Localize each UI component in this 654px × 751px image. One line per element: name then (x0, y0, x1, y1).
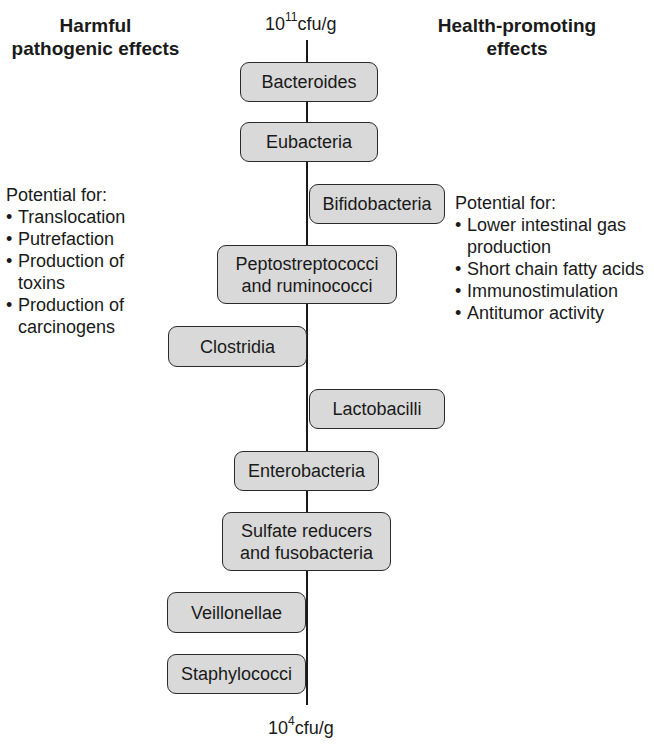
box-sulfate-reducers: Sulfate reducers and fusobacteria (222, 512, 391, 571)
beneficial-item-immunostimulation: Immunostimulation (455, 280, 654, 302)
harmful-item-translocation: Translocation (6, 206, 166, 228)
axis-bottom-unit: cfu/g (295, 718, 334, 738)
box-eubacteria: Eubacteria (240, 122, 378, 162)
beneficial-effects-title: Potential for: (455, 192, 654, 214)
box-veillonellae: Veillonellae (167, 592, 306, 633)
harmful-effects-title: Potential for: (6, 184, 166, 206)
harmful-item-toxins: Production of toxins (6, 250, 166, 294)
box-clostridia: Clostridia (168, 326, 307, 367)
axis-bottom-exponent: 4 (288, 714, 295, 728)
axis-bottom-label: 104cfu/g (268, 718, 334, 738)
box-staphylococci: Staphylococci (167, 654, 306, 694)
axis-top-unit: cfu/g (298, 14, 337, 34)
box-peptostreptococci: Peptostreptococci and ruminococci (217, 245, 397, 304)
harmful-item-carcinogens: Production of carcinogens (6, 294, 166, 338)
axis-top-label: 1011cfu/g (265, 14, 337, 34)
beneficial-effects-list: Potential for: Lower intestinal gas prod… (455, 192, 654, 324)
box-bacteroides: Bacteroides (240, 62, 378, 102)
axis-bottom-base: 10 (268, 718, 288, 738)
heading-harmful: Harmful pathogenic effects (8, 14, 183, 60)
axis-top-exponent: 11 (285, 10, 297, 24)
heading-health-promoting: Health-promoting effects (432, 14, 602, 60)
box-bifidobacteria: Bifidobacteria (309, 184, 445, 224)
box-enterobacteria: Enterobacteria (234, 451, 379, 491)
beneficial-item-gas: Lower intestinal gas production (455, 214, 654, 258)
beneficial-item-antitumor: Antitumor activity (455, 302, 654, 324)
beneficial-item-scfa: Short chain fatty acids (455, 258, 654, 280)
axis-top-base: 10 (265, 14, 285, 34)
harmful-effects-list: Potential for: Translocation Putrefactio… (6, 184, 166, 338)
box-lactobacilli: Lactobacilli (309, 389, 445, 429)
harmful-item-putrefaction: Putrefaction (6, 228, 166, 250)
